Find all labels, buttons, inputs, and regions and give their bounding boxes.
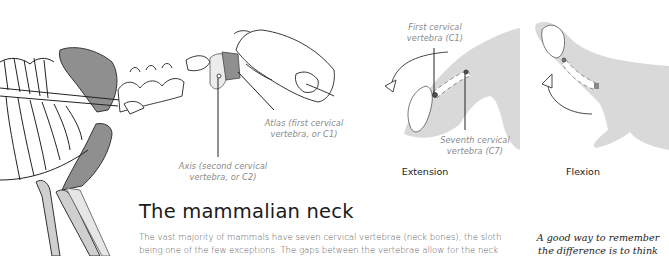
article-title: The mammalian neck	[139, 200, 354, 223]
side-note-line-1: A good way to remember	[528, 231, 668, 244]
article-body-line-1: The vast majority of mammals have seven …	[139, 231, 501, 244]
article-body: The vast majority of mammals have seven …	[139, 231, 501, 256]
flexion-caption: Flexion	[548, 166, 618, 177]
side-note: A good way to remember the difference is…	[528, 231, 668, 256]
side-note-line-2: the difference is to think	[528, 244, 668, 256]
article-body-line-2: being one of the few exceptions. The gap…	[139, 244, 501, 256]
